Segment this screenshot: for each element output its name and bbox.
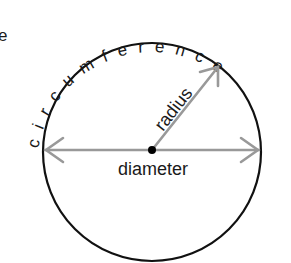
center-dot bbox=[148, 146, 156, 154]
radius-label: radius bbox=[150, 84, 196, 135]
stray-letter: e bbox=[0, 26, 7, 45]
circle-diagram: e circumference radius diameter bbox=[0, 0, 291, 263]
circumference-label: circumference bbox=[24, 37, 236, 150]
diameter-label: diameter bbox=[118, 159, 188, 179]
